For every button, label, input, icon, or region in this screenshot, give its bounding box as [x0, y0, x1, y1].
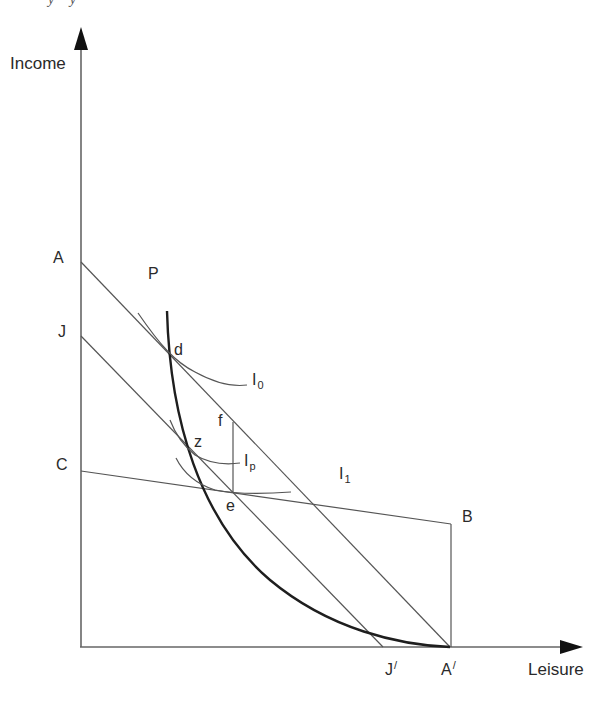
indifference-curve-I0: [138, 313, 247, 385]
curve-label-Ip: Ip: [244, 453, 256, 472]
point-label-z: z: [194, 434, 202, 450]
labor-leisure-diagram: [0, 0, 615, 710]
ip-base: I: [244, 452, 248, 469]
point-label-C: C: [56, 457, 68, 473]
indifference-curve-Ip: [170, 420, 240, 464]
x-axis-label: Leisure: [528, 661, 584, 678]
point-label-d: d: [174, 342, 183, 358]
point-label-e: e: [226, 498, 235, 514]
point-label-A-prime: A/: [441, 660, 456, 678]
j-prime-base: J: [385, 661, 393, 678]
curve-label-I0: I0: [252, 372, 264, 391]
i1-sub: 1: [344, 473, 350, 485]
j-prime-mark: /: [394, 659, 397, 671]
point-label-J-prime: J/: [385, 660, 397, 678]
point-label-P: P: [148, 266, 159, 282]
ip-sub: p: [249, 460, 255, 472]
i1-base: I: [339, 465, 343, 482]
point-label-f: f: [218, 413, 222, 429]
budget-line-AA: [81, 262, 450, 647]
a-prime-base: A: [441, 661, 452, 678]
x-axis-arrow-icon: [560, 640, 583, 654]
curve-P: [167, 311, 450, 647]
i0-sub: 0: [257, 379, 263, 391]
i0-base: I: [252, 371, 256, 388]
point-label-A: A: [53, 250, 64, 266]
y-axis-arrow-icon: [74, 27, 88, 50]
curve-label-I1: I1: [339, 466, 351, 485]
point-label-B: B: [462, 509, 473, 525]
y-axis-label: Income: [10, 55, 66, 72]
a-prime-mark: /: [453, 659, 456, 671]
budget-line-CB: [81, 471, 451, 524]
budget-line-JJ: [81, 336, 383, 647]
point-label-J: J: [58, 324, 66, 340]
